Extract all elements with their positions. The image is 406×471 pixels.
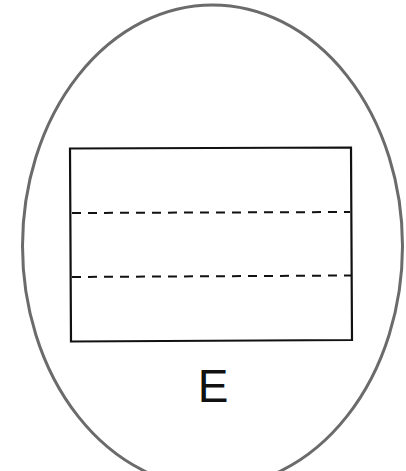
diagram-label: E xyxy=(0,360,406,412)
rectangle-box xyxy=(70,148,352,342)
dashed-divider-bottom xyxy=(72,276,351,278)
dashed-divider-top xyxy=(72,212,350,213)
